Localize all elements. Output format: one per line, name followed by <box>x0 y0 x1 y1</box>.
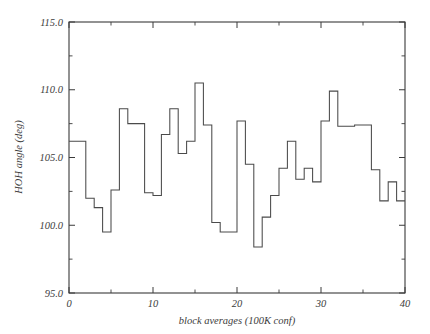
y-tick-label: 110.0 <box>40 84 64 95</box>
x-tick-label: 20 <box>232 298 243 309</box>
x-tick-label: 30 <box>315 298 327 309</box>
x-axis-title: block averages (100K conf) <box>179 315 296 327</box>
x-tick-label: 10 <box>148 298 159 309</box>
x-tick-label: 40 <box>400 298 411 309</box>
y-axis-title: HOH angle (deg) <box>13 120 25 195</box>
y-tick-label: 95.0 <box>45 288 64 299</box>
y-tick-label: 100.0 <box>39 220 63 231</box>
data-series-step-line <box>69 83 405 247</box>
y-tick-label: 115.0 <box>40 17 64 28</box>
x-tick-label: 0 <box>66 298 72 309</box>
y-axis-tick-labels: 95.0100.0105.0110.0115.0 <box>39 17 63 299</box>
y-tick-label: 105.0 <box>39 152 63 163</box>
step-line-chart: 95.0100.0105.0110.0115.0 010203040 block… <box>0 0 430 334</box>
x-axis-tick-labels: 010203040 <box>66 298 411 309</box>
chart-figure: 95.0100.0105.0110.0115.0 010203040 block… <box>0 0 430 334</box>
